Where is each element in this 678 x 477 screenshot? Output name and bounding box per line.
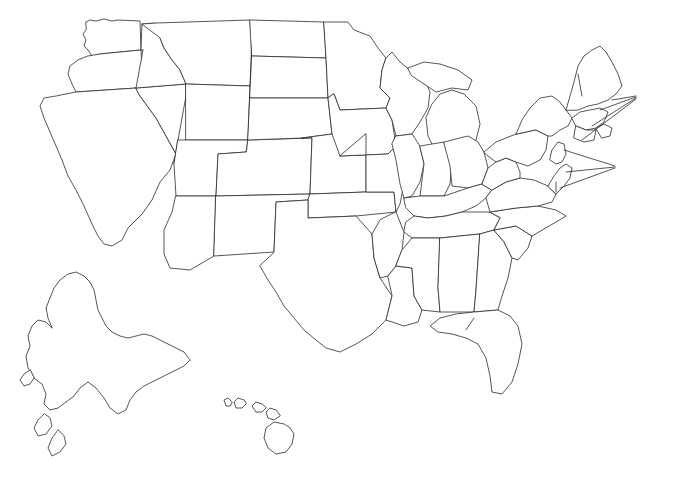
state-alaska bbox=[26, 272, 190, 414]
map-figure bbox=[0, 0, 678, 477]
hawaii-big-island bbox=[264, 422, 294, 454]
hawaii-kauai bbox=[224, 398, 232, 406]
alaska-aleutian-3 bbox=[48, 430, 66, 456]
state-oklahoma bbox=[308, 192, 396, 218]
hawaii-maui bbox=[266, 408, 280, 420]
state-texas bbox=[260, 200, 392, 352]
leader-mid-atlantic-1 bbox=[564, 150, 615, 166]
us-map-outlines bbox=[0, 0, 678, 477]
state-wyoming bbox=[186, 84, 250, 140]
region-new-jersey bbox=[550, 142, 566, 164]
region-maryland bbox=[548, 164, 572, 194]
state-florida bbox=[430, 310, 522, 394]
state-nebraska bbox=[248, 98, 332, 140]
state-oregon bbox=[68, 50, 143, 92]
region-new-england bbox=[566, 46, 622, 110]
hawaii-molokai bbox=[252, 402, 266, 412]
alaska-hawaii-outlines bbox=[20, 272, 294, 456]
alaska-aleutian-2 bbox=[34, 414, 52, 436]
state-pennsylvania bbox=[484, 130, 548, 166]
state-alabama bbox=[438, 234, 480, 312]
hawaii-oahu bbox=[234, 398, 246, 408]
state-arizona bbox=[164, 196, 216, 270]
leader-mid-atlantic-2 bbox=[566, 167, 615, 172]
state-new-york bbox=[516, 96, 572, 136]
state-south-dakota bbox=[250, 56, 328, 98]
state-north-dakota bbox=[250, 20, 326, 58]
